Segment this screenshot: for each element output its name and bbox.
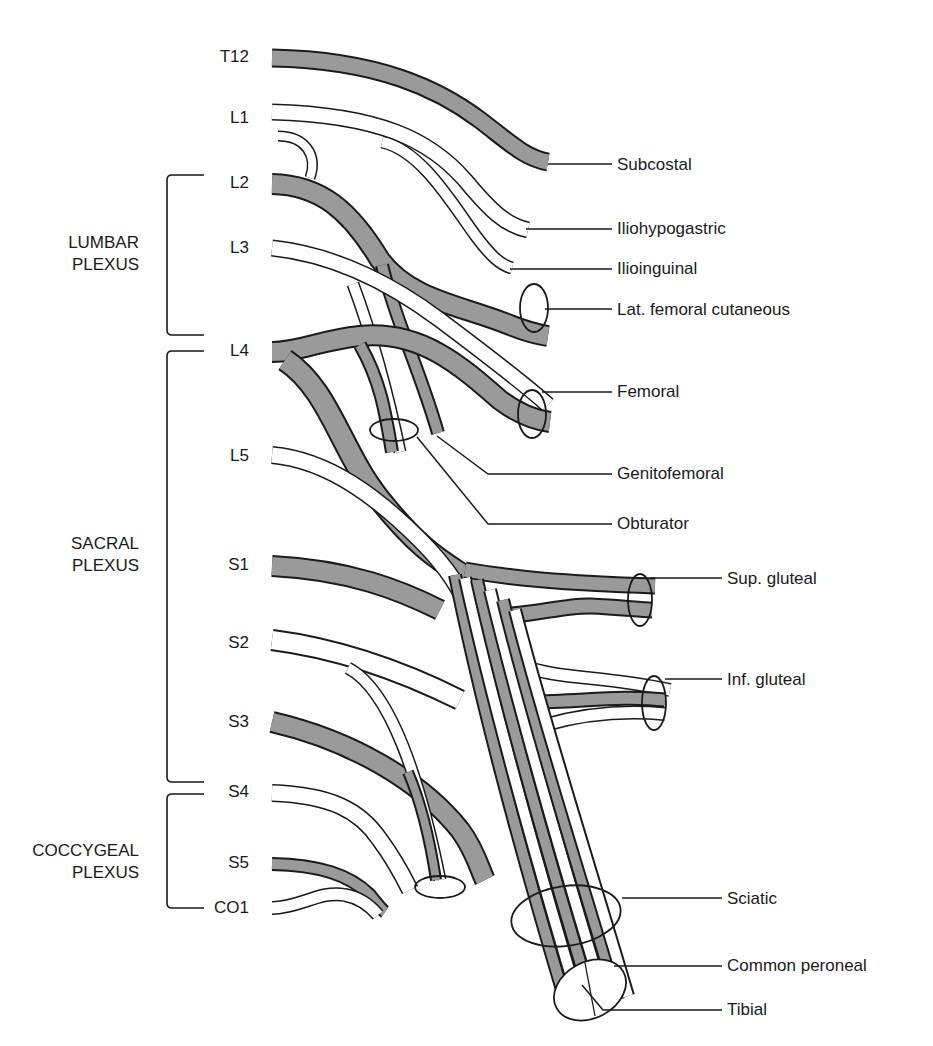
root-label-l2: L2 (230, 173, 249, 192)
bracket-coccygeal (167, 794, 204, 908)
nerve-label-sciatic: Sciatic (727, 889, 778, 908)
root-label-l1: L1 (230, 108, 249, 127)
nerve-label-ilioinguinal: Ilioinguinal (617, 259, 697, 278)
nerve-label-iliohypogastric: Iliohypogastric (617, 219, 726, 238)
group-label-sacral: SACRALPLEXUS (71, 534, 139, 575)
nerve-label-tibial: Tibial (727, 1000, 767, 1019)
bracket-lumbar (167, 175, 204, 335)
nerve-label-subcostal: Subcostal (617, 155, 692, 174)
root-label-s5: S5 (228, 853, 249, 872)
root-label-s1: S1 (228, 555, 249, 574)
bracket-sacral (167, 351, 204, 782)
nerve-label-femoral: Femoral (617, 382, 679, 401)
group-label-lumbar: LUMBARPLEXUS (68, 233, 139, 274)
root-label-t12: T12 (220, 47, 249, 66)
group-label-coccygeal: COCCYGEALPLEXUS (32, 841, 139, 882)
root-label-co1: CO1 (214, 898, 249, 917)
root-label-l3: L3 (230, 238, 249, 257)
nerve-label-lat-femoral-cutaneous: Lat. femoral cutaneous (617, 300, 790, 319)
root-label-l4: L4 (230, 341, 249, 360)
nerve-label-genitofemoral: Genitofemoral (617, 464, 724, 483)
root-label-s2: S2 (228, 633, 249, 652)
nerve-label-common-peroneal: Common peroneal (727, 956, 867, 975)
root-label-s4: S4 (228, 782, 249, 801)
plexus-diagram: LUMBARPLEXUS SACRALPLEXUS COCCYGEALPLEXU… (0, 0, 933, 1046)
root-label-l5: L5 (230, 446, 249, 465)
nerve-paths (272, 58, 670, 1033)
nerve-label-obturator: Obturator (617, 514, 689, 533)
root-label-s3: S3 (228, 712, 249, 731)
nerve-label-sup-gluteal: Sup. gluteal (727, 569, 817, 588)
nerve-label-inf-gluteal: Inf. gluteal (727, 670, 805, 689)
nerve-co1 (272, 894, 378, 915)
